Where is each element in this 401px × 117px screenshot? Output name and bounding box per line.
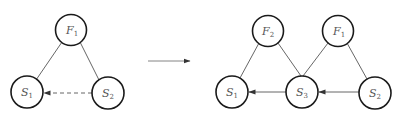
node-s2: S2 bbox=[359, 77, 391, 109]
left-diagram: F1 S1 S2 bbox=[11, 15, 124, 110]
edge-f2-s1 bbox=[240, 43, 259, 78]
node-f1: F1 bbox=[56, 15, 87, 46]
edge-f2-s3 bbox=[278, 43, 301, 76]
network-transformation-diagram: F1 S1 S2 F2 F1 S1 bbox=[0, 0, 401, 117]
edge-f1-s1 bbox=[36, 42, 62, 80]
edge-f1-s2 bbox=[80, 42, 99, 80]
node-s2: S2 bbox=[92, 77, 124, 109]
node-s1: S1 bbox=[11, 76, 43, 108]
node-f1: F1 bbox=[323, 16, 354, 47]
right-diagram: F2 F1 S1 S3 S2 bbox=[216, 16, 391, 110]
node-s1: S1 bbox=[216, 76, 248, 108]
node-f2: F2 bbox=[253, 16, 284, 47]
node-s3: S3 bbox=[286, 76, 318, 108]
edge-f1-s3 bbox=[303, 43, 328, 76]
edge-f1-s2 bbox=[347, 43, 367, 79]
